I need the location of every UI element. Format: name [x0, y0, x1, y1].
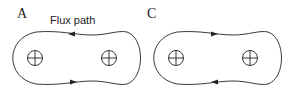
arrow-right-icon — [211, 32, 218, 37]
flux-diagram — [0, 0, 282, 98]
conductor-cross-icon — [243, 51, 258, 66]
panel-c-diagram — [154, 32, 282, 85]
conductor-cross-icon — [28, 51, 43, 66]
arrow-left-icon — [211, 80, 218, 85]
conductor-cross-icon — [169, 51, 184, 66]
arrow-right-icon — [70, 80, 77, 85]
panel-a-diagram — [13, 32, 141, 85]
conductor-cross-icon — [102, 51, 117, 66]
arrow-left-icon — [68, 32, 75, 37]
